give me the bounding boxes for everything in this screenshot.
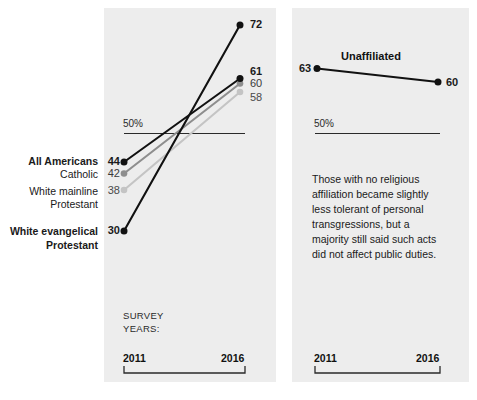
series-value-white-evangelical-protestant-2011: 30 [100,224,120,237]
series-label-white-mainline-protestant-line1: White mainline [0,185,98,197]
series-end-value-white-evangelical-protestant-2016: 72 [250,18,262,31]
survey-years-caption-line2: YEARS: [123,323,160,336]
x-tick-right-2016: 2016 [416,352,439,364]
series-value-catholic-2011: 42 [100,167,120,180]
series-end-value-catholic-2016: 60 [250,77,262,90]
x-tick-left-2011: 2011 [123,352,146,364]
reference-label-right: 50% [314,118,334,130]
series-value-white-mainline-protestant-2011: 38 [100,184,120,197]
x-tick-right-2011: 2011 [314,352,337,364]
series-end-value-white-mainline-protestant-2016: 58 [250,91,262,104]
reference-label-left: 50% [123,118,143,130]
series-label-white-evangelical-protestant-line2: Protestant [0,239,98,251]
survey-years-caption-line1: SURVEY [123,310,164,323]
series-label-white-mainline-protestant-line2: Protestant [0,198,98,210]
unaffiliated-panel-title: Unaffiliated [341,50,401,63]
unaffiliated-value-2011: 63 [299,62,311,75]
unaffiliated-value-2016: 60 [446,76,458,89]
unaffiliated-description: Those with no religious affiliation beca… [312,172,448,261]
x-tick-left-2016: 2016 [221,352,244,364]
series-label-white-evangelical-protestant-line1: White evangelical [0,225,98,237]
chart-stage: All Americans 44 Catholic 42 White mainl… [0,0,477,400]
series-label-catholic: Catholic [0,168,98,180]
series-label-all-americans: All Americans [0,155,98,167]
